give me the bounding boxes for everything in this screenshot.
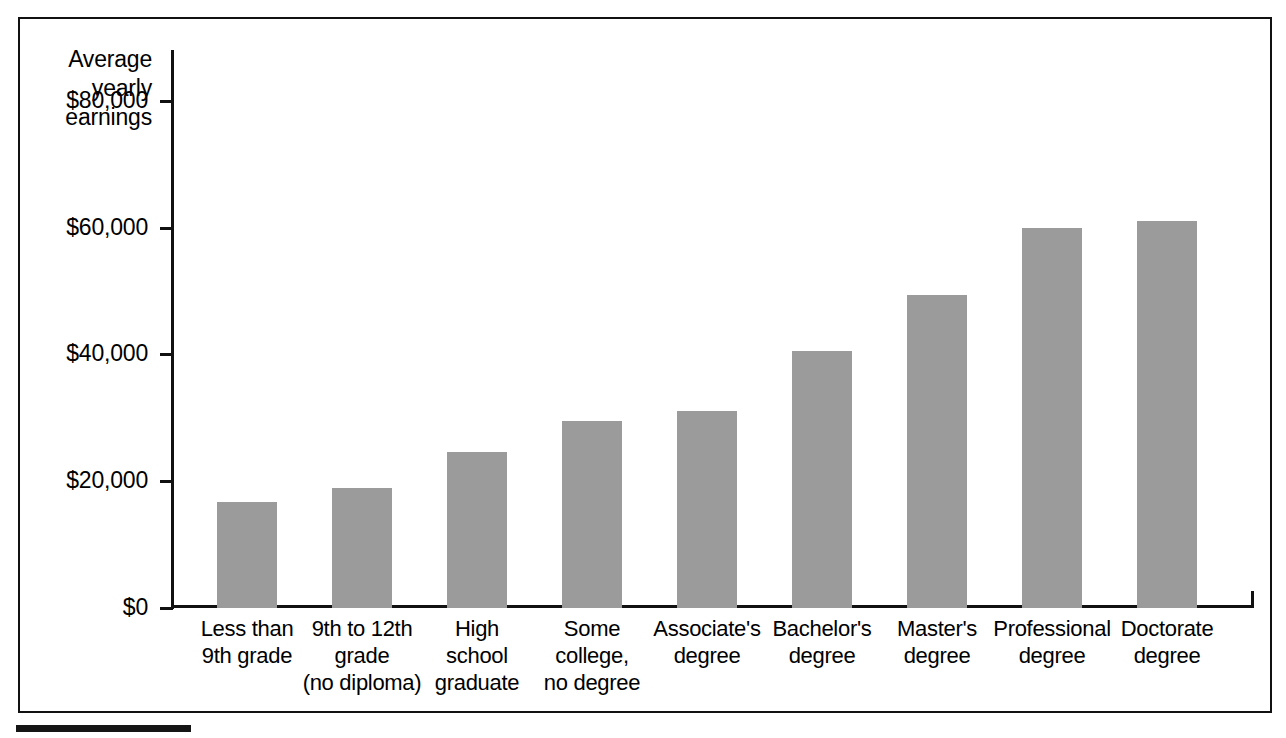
chart-page: Average yearly earnings $80,000$60,000$4…: [0, 0, 1286, 738]
x-axis-label: Professionaldegree: [987, 615, 1117, 669]
plot-area: Average yearly earnings $80,000$60,000$4…: [20, 19, 1274, 715]
x-axis-label-line: 9th grade: [182, 642, 312, 669]
x-axis-label: Associate'sdegree: [642, 615, 772, 669]
x-axis-label-line: degree: [642, 642, 772, 669]
x-axis-label: Master'sdegree: [872, 615, 1002, 669]
x-axis-label-line: Master's: [872, 615, 1002, 642]
x-axis-label-line: college,: [527, 642, 657, 669]
x-axis-label-line: Some: [527, 615, 657, 642]
y-axis-tick-label: $0: [28, 596, 148, 619]
bar: [1022, 228, 1082, 608]
x-axis-label: Somecollege,no degree: [527, 615, 657, 696]
x-axis-label-line: degree: [757, 642, 887, 669]
bar: [1137, 221, 1197, 608]
bar: [907, 295, 967, 608]
x-axis-label-line: degree: [872, 642, 1002, 669]
bar: [562, 421, 622, 608]
x-axis-label-line: 9th to 12th: [297, 615, 427, 642]
x-axis-label-line: school: [412, 642, 542, 669]
bottom-rule: [16, 725, 191, 732]
y-axis-tick-label: $40,000: [28, 342, 148, 365]
x-axis-label: Highschoolgraduate: [412, 615, 542, 696]
x-axis-label-line: High: [412, 615, 542, 642]
x-axis-label-line: degree: [987, 642, 1117, 669]
y-axis-tick-label: $20,000: [28, 469, 148, 492]
x-axis-label: Bachelor'sdegree: [757, 615, 887, 669]
x-axis-label-line: degree: [1102, 642, 1232, 669]
y-axis-title-line: Average: [20, 45, 152, 74]
x-axis-label: 9th to 12thgrade(no diploma): [297, 615, 427, 696]
x-axis-label-line: Less than: [182, 615, 312, 642]
x-axis-label: Doctoratedegree: [1102, 615, 1232, 669]
bar: [332, 488, 392, 608]
bar-series: [171, 50, 1254, 608]
chart-frame: Average yearly earnings $80,000$60,000$4…: [18, 17, 1272, 713]
x-axis-label-line: graduate: [412, 669, 542, 696]
y-axis-tick-label: $60,000: [28, 216, 148, 239]
bar: [217, 502, 277, 608]
x-axis-label-line: Doctorate: [1102, 615, 1232, 642]
x-axis-label-line: (no diploma): [297, 669, 427, 696]
x-axis-label-line: no degree: [527, 669, 657, 696]
x-axis-label-line: Associate's: [642, 615, 772, 642]
y-axis-tick-label: $80,000: [28, 89, 148, 112]
x-axis-labels: Less than9th grade9th to 12thgrade(no di…: [171, 615, 1271, 710]
x-axis-label-line: Professional: [987, 615, 1117, 642]
bar: [677, 411, 737, 608]
bar: [792, 351, 852, 608]
x-axis-label-line: Bachelor's: [757, 615, 887, 642]
x-axis-label: Less than9th grade: [182, 615, 312, 669]
bar: [447, 452, 507, 608]
x-axis-label-line: grade: [297, 642, 427, 669]
